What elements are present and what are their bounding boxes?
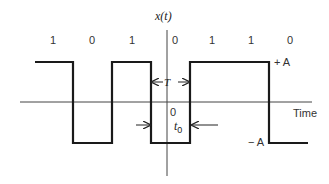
offset-label: t0 (174, 119, 182, 135)
bit-label-2: 0 (89, 34, 95, 46)
nrz-waveform-diagram: x(t) 1 0 1 0 1 1 0 + A − A Time T 0 t0 (0, 0, 329, 184)
positive-level-label: + A (274, 56, 291, 68)
period-label: T (164, 76, 171, 88)
bit-label-5: 1 (209, 34, 215, 46)
bit-label-4: 0 (172, 34, 178, 46)
negative-level-label: − A (248, 136, 265, 148)
bit-label-7: 0 (287, 34, 293, 46)
bit-label-3: 1 (129, 34, 135, 46)
bit-label-6: 1 (248, 34, 254, 46)
bit-label-1: 1 (50, 34, 56, 46)
time-axis-label: Time (293, 107, 317, 119)
y-axis-label: x(t) (154, 9, 172, 23)
origin-label: 0 (170, 106, 176, 118)
